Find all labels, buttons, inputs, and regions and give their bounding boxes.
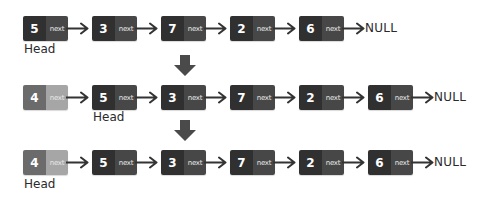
list-row-3: 4next5next3next7next2next6nextNULL xyxy=(0,150,484,176)
node-value: 7 xyxy=(230,85,253,110)
null-terminator: NULL xyxy=(434,90,466,104)
node-next-pointer: next xyxy=(184,85,206,110)
node-value: 3 xyxy=(161,150,184,175)
list-node: 7next xyxy=(230,85,275,110)
null-terminator: NULL xyxy=(434,155,466,169)
node-next-pointer: next xyxy=(46,16,68,41)
next-pointer-arrow-icon xyxy=(66,22,90,35)
node-value: 7 xyxy=(230,150,253,175)
new-list-node: 4next xyxy=(23,85,68,110)
list-node: 6next xyxy=(368,85,413,110)
node-next-pointer: next xyxy=(115,16,137,41)
head-label: Head xyxy=(93,110,124,124)
list-node: 2next xyxy=(299,85,344,110)
next-pointer-arrow-icon xyxy=(135,156,159,169)
node-value: 2 xyxy=(299,150,322,175)
node-next-pointer: next xyxy=(322,85,344,110)
list-node: 5next xyxy=(92,150,137,175)
list-node: 3next xyxy=(92,16,137,41)
list-node: 6next xyxy=(368,150,413,175)
null-terminator: NULL xyxy=(365,21,397,35)
list-row-2: 4next5next3next7next2next6nextNULL xyxy=(0,85,484,111)
next-pointer-arrow-icon xyxy=(66,91,90,104)
list-node: 3next xyxy=(161,150,206,175)
node-value: 6 xyxy=(368,150,391,175)
next-pointer-arrow-icon xyxy=(273,22,297,35)
head-label: Head xyxy=(24,177,55,191)
next-pointer-arrow-icon xyxy=(135,91,159,104)
list-node: 5next xyxy=(92,85,137,110)
node-value: 5 xyxy=(23,16,46,41)
next-pointer-arrow-icon xyxy=(204,156,228,169)
next-pointer-arrow-icon xyxy=(273,156,297,169)
next-pointer-arrow-icon xyxy=(342,22,366,35)
node-next-pointer: next xyxy=(115,150,137,175)
list-node: 2next xyxy=(299,150,344,175)
node-next-pointer: next xyxy=(391,150,413,175)
node-next-pointer: next xyxy=(253,150,275,175)
list-node: 7next xyxy=(230,150,275,175)
node-value: 2 xyxy=(230,16,253,41)
next-pointer-arrow-icon xyxy=(342,156,366,169)
node-value: 5 xyxy=(92,85,115,110)
node-next-pointer: next xyxy=(391,85,413,110)
node-next-pointer: next xyxy=(253,85,275,110)
list-node: 6next xyxy=(299,16,344,41)
node-next-pointer: next xyxy=(115,85,137,110)
next-pointer-arrow-icon xyxy=(135,22,159,35)
next-pointer-arrow-icon xyxy=(411,156,435,169)
node-value: 3 xyxy=(161,85,184,110)
next-pointer-arrow-icon xyxy=(66,156,90,169)
node-value: 2 xyxy=(299,85,322,110)
node-next-pointer: next xyxy=(253,16,275,41)
head-label: Head xyxy=(24,42,55,56)
node-value: 6 xyxy=(368,85,391,110)
step-down-arrow-icon xyxy=(174,120,196,142)
list-node: 5next xyxy=(23,16,68,41)
node-value: 3 xyxy=(92,16,115,41)
node-value: 6 xyxy=(299,16,322,41)
node-value: 7 xyxy=(161,16,184,41)
node-value: 5 xyxy=(92,150,115,175)
node-next-pointer: next xyxy=(322,16,344,41)
next-pointer-arrow-icon xyxy=(204,22,228,35)
next-pointer-arrow-icon xyxy=(204,91,228,104)
node-next-pointer: next xyxy=(322,150,344,175)
list-node: 7next xyxy=(161,16,206,41)
node-next-pointer: next xyxy=(46,150,68,175)
step-down-arrow-icon xyxy=(174,55,196,77)
node-value: 4 xyxy=(23,150,46,175)
node-next-pointer: next xyxy=(184,16,206,41)
next-pointer-arrow-icon xyxy=(411,91,435,104)
node-next-pointer: next xyxy=(184,150,206,175)
node-value: 4 xyxy=(23,85,46,110)
list-node: 2next xyxy=(230,16,275,41)
next-pointer-arrow-icon xyxy=(273,91,297,104)
new-list-node: 4next xyxy=(23,150,68,175)
list-node: 3next xyxy=(161,85,206,110)
list-row-1: 5next3next7next2next6nextNULL xyxy=(0,16,484,42)
next-pointer-arrow-icon xyxy=(342,91,366,104)
node-next-pointer: next xyxy=(46,85,68,110)
